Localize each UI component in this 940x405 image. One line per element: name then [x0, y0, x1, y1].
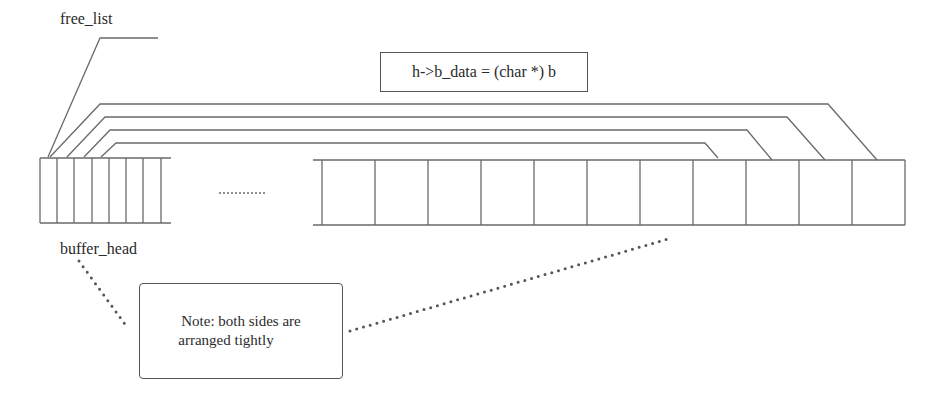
note-connector-right	[350, 239, 668, 331]
pointer-line-2	[67, 117, 825, 160]
free-list-pointer	[48, 38, 158, 157]
note-line-1: Note: both sides are	[181, 312, 301, 331]
formula-box: h->b_data = (char *) b	[380, 52, 588, 92]
note-connector-left	[79, 261, 127, 327]
note-box: Note: both sides are arranged tightly	[139, 283, 343, 379]
free-list-label: free_list	[60, 10, 112, 28]
buffer-head-array	[40, 158, 171, 223]
data-buffer-array	[313, 160, 905, 225]
pointer-line-1	[50, 104, 877, 160]
pointer-line-3	[84, 130, 772, 160]
formula-text: h->b_data = (char *) b	[412, 63, 556, 81]
buffer-head-label: buffer_head	[60, 240, 137, 258]
pointer-line-4	[101, 143, 718, 158]
note-line-2: arranged tightly	[178, 331, 273, 350]
